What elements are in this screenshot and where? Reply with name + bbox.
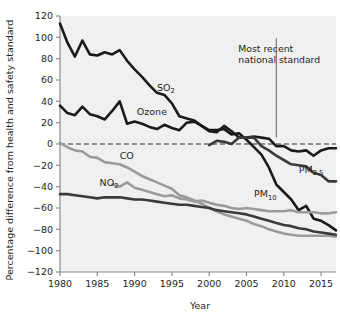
x-tick-label: 2015	[309, 278, 333, 289]
series-label-text: Ozone	[137, 106, 167, 117]
x-tick-label: 2010	[272, 278, 296, 289]
series-label-subscript: 10	[268, 194, 277, 202]
series-label-main: NO	[100, 177, 115, 188]
series-label-subscript: 2	[170, 87, 174, 95]
annotation-line-1: Most recent	[238, 43, 293, 54]
series-label-main: PM	[254, 188, 268, 199]
series-label-main: CO	[120, 150, 134, 161]
series-label-main: SO	[157, 82, 171, 93]
x-tick-label: 1995	[160, 278, 184, 289]
x-tick-label: 1985	[85, 278, 109, 289]
pollutant-trend-line-chart: 120100806040200−20−40−60−80−100−120 1980…	[0, 0, 340, 317]
y-tick-label: −20	[33, 160, 53, 171]
series-label-co: CO	[120, 150, 134, 161]
x-tick-label: 2005	[234, 278, 258, 289]
y-tick-label: −100	[27, 245, 53, 256]
series-label-ozone: Ozone	[137, 106, 167, 117]
annotation-line-2: national standard	[238, 54, 320, 65]
y-tick-label: −80	[33, 224, 53, 235]
y-axis-title: Percentage difference from health and sa…	[4, 20, 15, 281]
series-label-main: PM	[299, 164, 313, 175]
y-tick-label: −120	[27, 266, 53, 277]
series-label-main: Ozone	[137, 106, 167, 117]
series-label-subscript: 2.5	[313, 169, 324, 177]
x-tick-label: 1990	[123, 278, 147, 289]
y-tick-label: −40	[33, 181, 53, 192]
series-label-subscript: 2	[114, 182, 118, 190]
y-tick-label: 80	[41, 53, 53, 64]
y-tick-label: −60	[33, 202, 53, 213]
x-tick-label: 1980	[48, 278, 72, 289]
y-tick-label: 60	[41, 74, 53, 85]
y-tick-label: 40	[41, 96, 53, 107]
chart-figure: 120100806040200−20−40−60−80−100−120 1980…	[0, 0, 340, 317]
y-tick-label: 100	[35, 32, 53, 43]
x-tick-label: 2000	[197, 278, 221, 289]
series-label-text: CO	[120, 150, 134, 161]
y-tick-label: 0	[47, 138, 53, 149]
x-axis-title: Year	[189, 300, 210, 311]
y-tick-label: 20	[41, 117, 53, 128]
y-tick-label: 120	[35, 10, 53, 21]
